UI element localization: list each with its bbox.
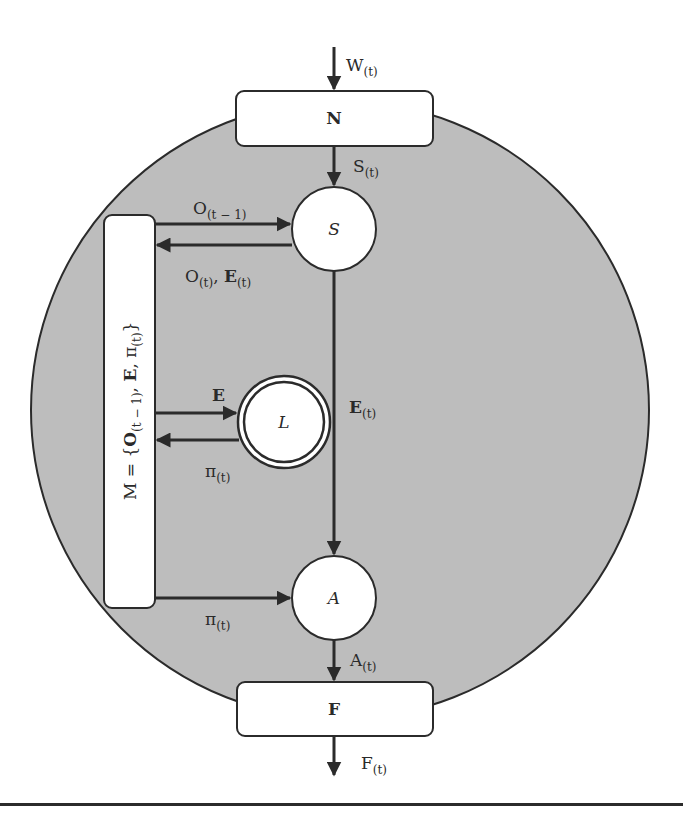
l-node-label: L — [277, 412, 289, 432]
a-node-label: A — [326, 588, 340, 608]
w-input-label: W(t) — [346, 55, 378, 79]
f-box-label: F — [328, 699, 340, 719]
s-node-label: S — [328, 219, 340, 239]
bottom-rule — [0, 803, 683, 806]
n-box-label: N — [326, 108, 342, 128]
f-output-label: F(t) — [361, 753, 387, 777]
agent-environment-diagram: W(t) N S(t) M = {O(t − 1), E, π(t)} O(t … — [0, 0, 683, 821]
e-to-l-label: E — [212, 385, 225, 405]
